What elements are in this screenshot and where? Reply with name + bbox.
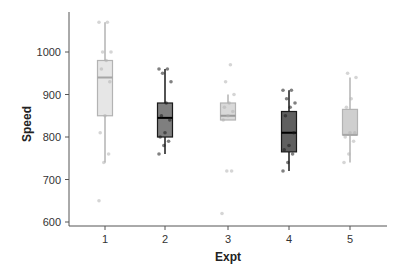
data-point <box>97 199 101 203</box>
y-ticks: 6007008009001000 <box>37 46 69 228</box>
x-ticks: 12345 <box>102 226 353 245</box>
y-axis-title: Speed <box>20 106 34 142</box>
data-point <box>292 131 296 135</box>
box-expt-3 <box>220 63 236 215</box>
data-point <box>167 139 171 143</box>
box-plot: 6007008009001000 12345 Expt Speed <box>0 0 408 278</box>
y-tick-label: 900 <box>43 89 61 101</box>
y-tick-label: 600 <box>43 216 61 228</box>
data-point <box>106 20 110 24</box>
data-point <box>225 169 229 173</box>
data-point <box>232 93 236 97</box>
data-point <box>103 114 107 118</box>
data-point <box>353 131 357 135</box>
box-expt-5 <box>342 71 358 164</box>
data-point <box>342 161 346 165</box>
data-point <box>168 118 172 122</box>
data-point <box>230 169 234 173</box>
data-point <box>169 80 173 84</box>
data-point <box>220 212 224 216</box>
data-point <box>102 161 106 165</box>
x-tick-label: 4 <box>286 233 292 245</box>
data-point <box>226 114 230 118</box>
data-point <box>100 67 104 71</box>
x-tick-label: 2 <box>162 233 168 245</box>
data-point <box>286 161 290 165</box>
data-point <box>287 144 291 148</box>
data-point <box>285 97 289 101</box>
data-point <box>221 118 225 122</box>
data-point <box>160 114 164 118</box>
data-point <box>291 152 295 156</box>
data-point <box>157 67 161 71</box>
data-point <box>158 135 162 139</box>
data-point <box>166 67 170 71</box>
y-tick-label: 1000 <box>37 46 61 58</box>
data-point <box>98 131 102 135</box>
data-point <box>231 110 235 114</box>
data-point <box>227 101 231 105</box>
data-point <box>354 76 358 80</box>
x-axis-title: Expt <box>215 250 241 264</box>
data-point <box>352 139 356 143</box>
data-point <box>109 50 113 54</box>
data-point <box>293 101 297 105</box>
data-point <box>161 71 165 75</box>
data-point <box>345 105 349 109</box>
data-point <box>284 114 288 118</box>
data-point <box>343 135 347 139</box>
data-point <box>157 152 161 156</box>
data-point <box>108 80 112 84</box>
y-axis: 6007008009001000 <box>37 12 69 228</box>
x-tick-label: 1 <box>102 233 108 245</box>
y-tick-label: 700 <box>43 174 61 186</box>
data-point <box>229 63 233 67</box>
data-point <box>290 88 294 92</box>
data-point <box>348 131 352 135</box>
box-expt-2 <box>157 67 173 156</box>
data-point <box>288 105 292 109</box>
data-point <box>107 152 111 156</box>
plot-area <box>97 20 358 215</box>
data-point <box>223 105 227 109</box>
y-tick-label: 800 <box>43 131 61 143</box>
data-point <box>97 20 101 24</box>
data-point <box>224 80 228 84</box>
box-expt-4 <box>281 88 297 172</box>
data-point <box>281 88 285 92</box>
data-point <box>281 169 285 173</box>
data-point <box>346 71 350 75</box>
data-point <box>104 59 108 63</box>
data-point <box>163 131 167 135</box>
box-expt-1 <box>97 20 113 202</box>
data-point <box>101 50 105 54</box>
x-tick-label: 3 <box>225 233 231 245</box>
data-point <box>162 144 166 148</box>
x-tick-label: 5 <box>347 233 353 245</box>
x-axis: 12345 <box>69 226 387 245</box>
data-point <box>282 148 286 152</box>
data-point <box>347 152 351 156</box>
data-point <box>349 97 353 101</box>
data-point <box>164 101 168 105</box>
